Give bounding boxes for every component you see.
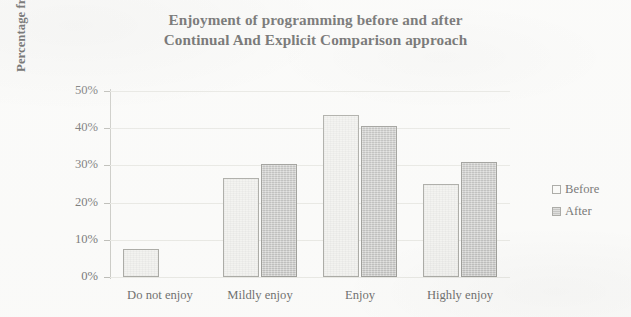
bar-chart: Enjoyment of programming before and afte…: [0, 0, 631, 317]
x-axis-tick-label: Mildly enjoy: [210, 288, 310, 303]
y-axis-tick-label: 50%: [52, 83, 98, 98]
y-axis-tick-mark: [104, 277, 110, 278]
bar-before-do-not-enjoy: [123, 249, 159, 277]
gridline: [110, 165, 510, 166]
gridline: [110, 91, 510, 92]
y-axis-tick-mark: [104, 240, 110, 241]
legend-label-before: Before: [565, 182, 599, 197]
gridline: [110, 128, 510, 129]
y-axis-tick-label: 0%: [52, 269, 98, 284]
legend-item-before: Before: [552, 178, 599, 200]
bar-before-enjoy: [323, 115, 359, 277]
legend-label-after: After: [565, 204, 592, 219]
bar-after-mildly-enjoy: [261, 164, 297, 277]
gridline: [110, 277, 510, 278]
y-axis-tick-label: 30%: [52, 157, 98, 172]
plot-area: [110, 91, 510, 277]
bar-after-enjoy: [361, 126, 397, 277]
y-axis-tick-mark: [104, 203, 110, 204]
y-axis-tick-label: 20%: [52, 195, 98, 210]
y-axis-tick-label: 40%: [52, 120, 98, 135]
chart-legend: Before After: [552, 178, 599, 222]
x-axis-tick-label: Highly enjoy: [410, 288, 510, 303]
bar-before-mildly-enjoy: [223, 178, 259, 277]
legend-item-after: After: [552, 200, 599, 222]
bar-after-highly-enjoy: [461, 162, 497, 277]
legend-swatch-after-icon: [552, 207, 561, 216]
y-axis-tick-mark: [104, 91, 110, 92]
y-axis-tick-label: 10%: [52, 232, 98, 247]
x-axis-tick-label: Do not enjoy: [110, 288, 210, 303]
y-axis-tick-mark: [104, 128, 110, 129]
y-axis-tick-mark: [104, 165, 110, 166]
legend-swatch-before-icon: [552, 185, 561, 194]
bar-before-highly-enjoy: [423, 184, 459, 277]
x-axis-tick-label: Enjoy: [310, 288, 410, 303]
